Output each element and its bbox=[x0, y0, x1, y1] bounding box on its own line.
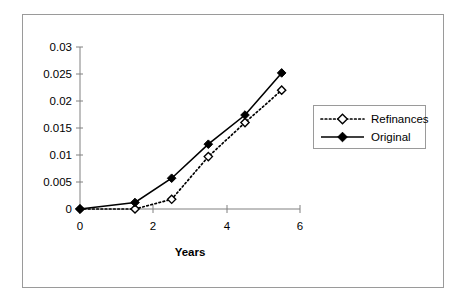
legend-label-refinances: Refinances bbox=[371, 113, 429, 125]
series-layer bbox=[76, 69, 286, 214]
x-tick-label-0: 0 bbox=[77, 220, 83, 232]
y-tick-label-0.01: 0.01 bbox=[50, 149, 72, 161]
y-tick-label-0.02: 0.02 bbox=[50, 95, 72, 107]
chart-plot-area: 0.03 0.025 0.02 0.015 0.01 0.005 0 0 2 4… bbox=[0, 0, 466, 308]
y-tick-label-0: 0 bbox=[66, 203, 72, 215]
x-axis-title: Years bbox=[175, 246, 206, 258]
y-tick-label-0.025: 0.025 bbox=[43, 68, 72, 80]
x-tick-label-2: 2 bbox=[150, 220, 156, 232]
legend-label-original: Original bbox=[371, 131, 411, 143]
chart-legend: Refinances Original bbox=[314, 106, 429, 149]
x-tick-label-6: 6 bbox=[297, 220, 303, 232]
y-tick-label-0.005: 0.005 bbox=[43, 176, 72, 188]
y-tick-label-0.015: 0.015 bbox=[43, 122, 72, 134]
data-point-original-1 bbox=[131, 198, 140, 207]
x-tick-label-4: 4 bbox=[224, 220, 231, 232]
series-original bbox=[76, 69, 286, 214]
chart-figure: 0.03 0.025 0.02 0.015 0.01 0.005 0 0 2 4… bbox=[0, 0, 466, 308]
y-tick-label-0.03: 0.03 bbox=[50, 41, 72, 53]
data-point-original-0 bbox=[76, 205, 85, 214]
